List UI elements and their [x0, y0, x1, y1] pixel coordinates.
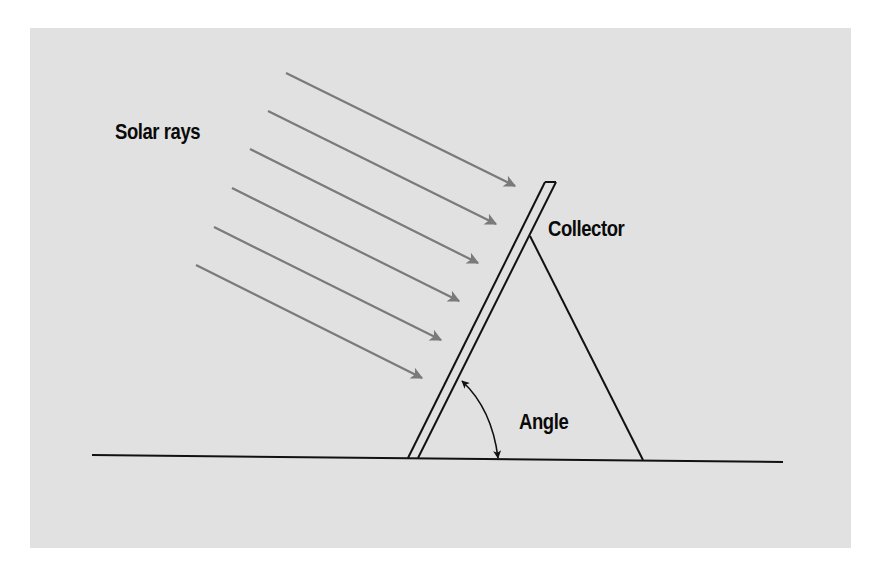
ground-line: [92, 455, 783, 462]
solar-rays-group: [196, 73, 515, 378]
solar-collector-diagram: [0, 0, 881, 577]
solar-ray-arrow-icon: [232, 188, 459, 301]
solar-ray-arrow-icon: [214, 227, 441, 340]
solar-ray-arrow-icon: [268, 111, 496, 224]
angle-arc-double-arrow-icon: [462, 381, 498, 458]
solar-ray-arrow-icon: [286, 73, 515, 186]
solar-ray-arrow-icon: [196, 265, 422, 378]
solar-ray-arrow-icon: [250, 149, 478, 263]
angle-label: Angle: [519, 411, 568, 433]
solar-rays-label: Solar rays: [115, 121, 200, 143]
collector-label: Collector: [548, 218, 624, 240]
